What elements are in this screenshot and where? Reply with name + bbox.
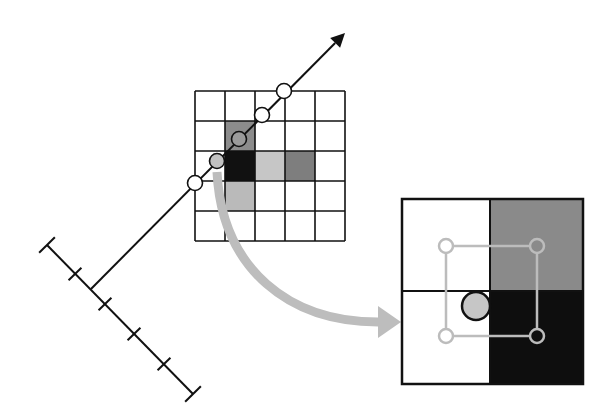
curved-arrowhead-icon (378, 306, 401, 338)
diagram-svg (0, 0, 609, 418)
sample-point (232, 132, 247, 147)
sample-point (188, 176, 203, 191)
sample-point (210, 154, 225, 169)
shaded-pixel (285, 151, 315, 181)
interpolation-point (439, 239, 453, 253)
shaded-pixel (225, 151, 255, 181)
interpolation-point (530, 239, 544, 253)
diagram-canvas (0, 0, 609, 418)
shaded-pixel (255, 151, 285, 181)
magnified-interpolation-box (402, 199, 583, 384)
interpolation-point (439, 329, 453, 343)
sample-point (277, 84, 292, 99)
shaded-pixel (225, 181, 255, 211)
ruler-line (47, 245, 193, 394)
interpolation-point (530, 329, 544, 343)
interpolated-sample (462, 292, 490, 320)
distance-ruler (39, 237, 201, 401)
sample-point (255, 108, 270, 123)
